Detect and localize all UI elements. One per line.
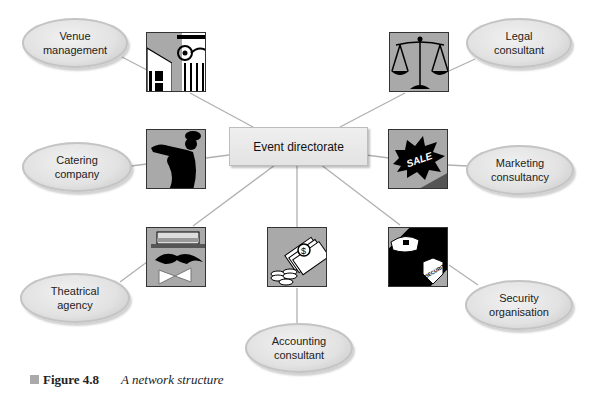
classical-building-icon xyxy=(146,32,206,92)
figure-number: Figure 4.8 xyxy=(43,372,99,387)
sale-burst-icon: SALE xyxy=(388,129,448,189)
node-label: Theatrical agency xyxy=(51,284,99,312)
node-theatrical-agency: Theatrical agency xyxy=(20,273,130,323)
scales-of-justice-icon xyxy=(389,32,449,92)
node-label: Venue management xyxy=(43,29,107,57)
node-label: Accounting consultant xyxy=(272,334,326,362)
event-directorate-label: Event directorate xyxy=(253,140,344,154)
figure-caption: Figure 4.8A network structure xyxy=(30,372,224,388)
node-venue-management: Venue management xyxy=(22,18,128,68)
police-badge-icon: SECURITY xyxy=(388,227,448,287)
node-label: Legal consultant xyxy=(494,29,544,57)
event-directorate-box: Event directorate xyxy=(229,127,368,166)
node-label: Marketing consultancy xyxy=(491,156,549,184)
node-label: Security organisation xyxy=(489,291,549,319)
node-security-organisation: Security organisation xyxy=(465,280,573,330)
figure-title: A network structure xyxy=(121,372,224,387)
node-marketing-consultancy: Marketing consultancy xyxy=(466,145,574,195)
node-legal-consultant: Legal consultant xyxy=(466,18,572,68)
svg-text:$: $ xyxy=(301,246,306,256)
caption-square-icon xyxy=(30,375,39,384)
node-catering-company: Catering company xyxy=(22,142,132,192)
node-label: Catering company xyxy=(55,153,100,181)
waiter-silhouette-icon xyxy=(146,129,206,189)
node-accounting-consultant: Accounting consultant xyxy=(245,323,353,373)
hat-moustache-bowtie-icon xyxy=(146,227,206,287)
money-coins-icon: $ xyxy=(267,227,327,287)
